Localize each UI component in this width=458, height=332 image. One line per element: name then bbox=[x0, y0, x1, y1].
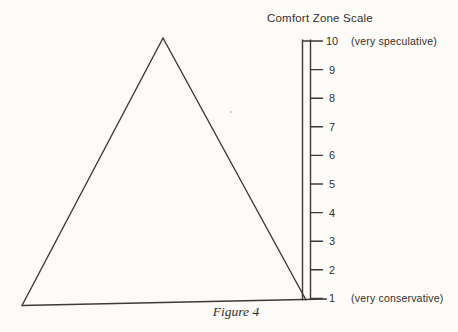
scale-tick-label-5: 5 bbox=[322, 177, 342, 191]
scale-ticks bbox=[303, 41, 323, 298]
scale-min-annotation: (very conservative) bbox=[351, 291, 444, 305]
figure-caption: Figure 4 bbox=[196, 304, 276, 320]
scale-tick-label-3: 3 bbox=[322, 234, 342, 248]
paper-speck bbox=[230, 111, 232, 113]
scale-title: Comfort Zone Scale bbox=[267, 12, 373, 24]
scale-tick-label-10: 10 bbox=[322, 34, 342, 48]
scale-tick-label-9: 9 bbox=[322, 63, 342, 77]
scale-tick-label-8: 8 bbox=[322, 91, 342, 105]
triangle-right-edge bbox=[163, 38, 306, 300]
scale-tick-label-1: 1 bbox=[322, 291, 342, 305]
figure-canvas: Comfort Zone Scale 10987654321 (very spe… bbox=[0, 0, 458, 332]
scale-tick-label-2: 2 bbox=[322, 263, 342, 277]
scale-tick-label-7: 7 bbox=[322, 120, 342, 134]
triangle-base-line bbox=[22, 299, 327, 306]
triangle-left-edge bbox=[22, 38, 163, 306]
scale-tick-label-4: 4 bbox=[322, 206, 342, 220]
scale-max-annotation: (very speculative) bbox=[351, 34, 437, 48]
scale-tick-label-6: 6 bbox=[322, 148, 342, 162]
figure-drawing bbox=[0, 0, 458, 332]
